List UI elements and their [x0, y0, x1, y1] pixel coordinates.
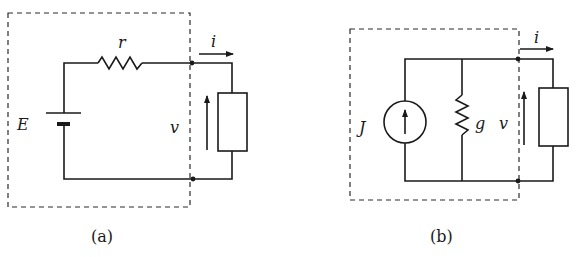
terminal-node-top — [516, 57, 521, 62]
wire-top — [405, 59, 553, 101]
norton-dashed-box — [350, 29, 519, 200]
circuit-figure: r i E v (a) i J g v (b) — [0, 0, 576, 257]
caption-b: (b) — [430, 227, 453, 246]
wire-bottom — [405, 143, 553, 181]
label-g: g — [475, 114, 485, 133]
label-v: v — [499, 114, 508, 133]
resistor-r-icon — [98, 57, 142, 69]
label-v: v — [170, 118, 179, 137]
label-E: E — [16, 115, 29, 134]
terminal-node-bottom — [191, 177, 196, 182]
load-box-icon — [218, 93, 247, 151]
resistor-g-icon — [456, 95, 468, 135]
panel-b: i J g v (b) — [350, 28, 568, 246]
load-box-icon — [539, 88, 568, 146]
label-i: i — [534, 28, 539, 47]
wire-top-right — [142, 63, 232, 93]
caption-a: (a) — [91, 227, 113, 246]
thevenin-dashed-box — [8, 13, 190, 207]
panel-a: r i E v (a) — [8, 13, 247, 246]
label-J: J — [356, 118, 367, 137]
current-source-icon — [384, 101, 426, 143]
label-i: i — [211, 32, 216, 51]
wire-top-left — [64, 63, 98, 113]
battery-icon — [46, 113, 81, 124]
label-r: r — [118, 33, 127, 52]
terminal-node-bottom — [516, 179, 521, 184]
terminal-node-top — [190, 61, 195, 66]
